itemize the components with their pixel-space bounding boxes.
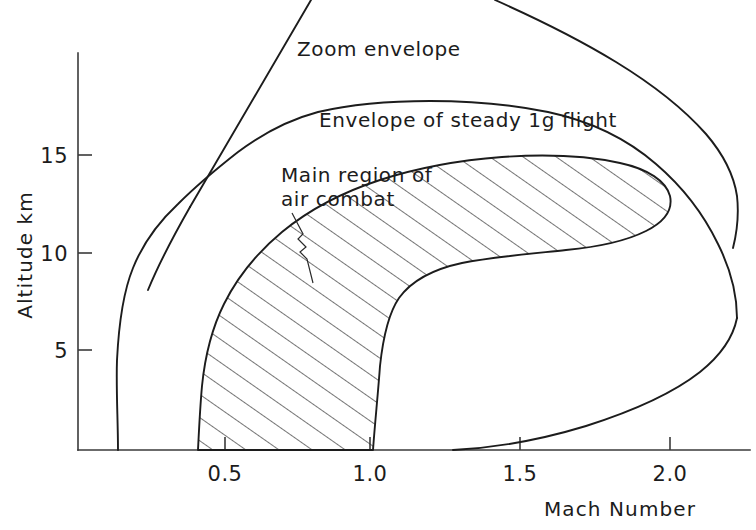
flight-envelope-plot: 15 10 5 0.5 1.0 1.5 2.0 Mach Number Alti… [0,0,756,530]
air-combat-label-line1: Main region of [281,163,433,187]
x-tick-labels: 0.5 1.0 1.5 2.0 [208,462,688,486]
x-tick-label-0.5: 0.5 [208,462,243,486]
y-axis-title: Altitude km [13,191,37,319]
steady-1g-envelope-lower-right [453,318,737,450]
air-combat-region [198,156,671,450]
chart-figure: 15 10 5 0.5 1.0 1.5 2.0 Mach Number Alti… [0,0,756,530]
steady-1g-flight-label: Envelope of steady 1g flight [319,108,617,132]
y-tick-labels: 15 10 5 [40,144,68,363]
zoom-envelope-label: Zoom envelope [297,37,461,61]
x-tick-label-2.0: 2.0 [653,462,688,486]
y-tick-label-15: 15 [40,144,68,168]
zoom-envelope-tangent-tail [148,207,190,290]
x-tick-label-1.0: 1.0 [353,462,388,486]
x-axis-title: Mach Number [544,497,696,521]
y-tick-label-10: 10 [40,242,68,266]
x-tick-label-1.5: 1.5 [503,462,538,486]
y-tick-label-5: 5 [54,339,68,363]
air-combat-label-line2: air combat [281,187,395,211]
